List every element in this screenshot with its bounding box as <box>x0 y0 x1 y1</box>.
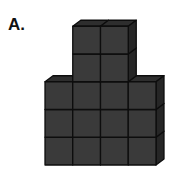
cube-front-face <box>45 82 73 110</box>
cube-front-face <box>73 82 101 110</box>
cube-front-face <box>101 26 129 54</box>
cube-front-face <box>73 137 101 165</box>
cube-front-face <box>73 26 101 54</box>
cube-side-face <box>128 20 136 54</box>
cube-side-face <box>156 76 164 110</box>
cube-front-face <box>128 137 156 165</box>
cube-front-face <box>128 110 156 138</box>
cube-front-face <box>101 137 129 165</box>
cube-front-face <box>128 82 156 110</box>
cube-front-face <box>73 110 101 138</box>
cube-front-face <box>101 110 129 138</box>
cube-front-face <box>73 54 101 82</box>
cube-front-face <box>101 54 129 82</box>
cube-stack-diagram <box>0 0 178 175</box>
cube-front-face <box>45 110 73 138</box>
cube-front-face <box>45 137 73 165</box>
cube-front-face <box>101 82 129 110</box>
